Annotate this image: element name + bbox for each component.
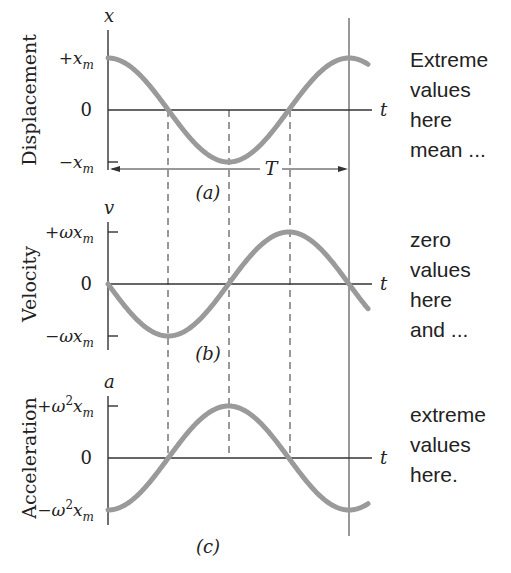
zero-label: 0 [81,273,92,294]
panel-tag: (c) [196,536,220,557]
period-label: T [265,157,279,179]
pos-tick-label: +ωxm [45,222,94,246]
note-acceleration: extreme values here. [410,400,486,490]
arrow-left-icon [110,166,120,172]
panel-tag: (b) [195,343,221,364]
neg-tick-label: −ωxm [45,326,94,350]
ylabel-acceleration: Acceleration [18,397,40,519]
t-label: t [380,273,388,294]
note-displacement: Extreme values here mean ... [410,45,488,165]
zero-label: 0 [81,447,92,468]
panel-tag: (a) [196,182,221,203]
note-velocity: zero values here and ... [410,225,471,345]
zero-label: 0 [81,99,92,120]
neg-tick-label: −xm [59,152,94,176]
t-label: t [380,99,388,120]
ylabel-velocity: Velocity [18,246,40,323]
axis-var-label: v [104,197,114,218]
arrow-right-icon [338,166,348,172]
axis-var-label: x [104,5,114,26]
ylabel-displacement: Displacement [18,34,40,166]
pos-tick-label: +ω2xm [37,394,94,420]
neg-tick-label: −ω2xm [37,498,94,524]
t-label: t [380,447,388,468]
shm-diagram: x0t+xm−xmDisplacement(a)v0t+ωxm−ωxmVeloc… [0,0,511,573]
pos-tick-label: +xm [59,48,94,72]
axis-var-label: a [104,371,115,392]
